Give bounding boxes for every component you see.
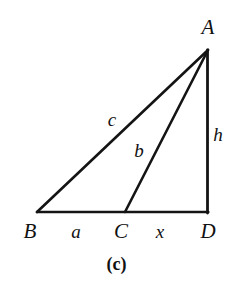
side-label-x: x <box>156 222 164 241</box>
geometry-figure: A B C D c b h a x (c) <box>0 0 233 287</box>
segment-ca <box>125 50 208 212</box>
vertex-label-c: C <box>114 221 128 242</box>
segment-ba <box>37 50 208 212</box>
triangle-drawing <box>0 0 233 287</box>
side-label-b: b <box>134 141 144 160</box>
figure-caption: (c) <box>0 255 233 273</box>
side-label-h: h <box>213 125 223 144</box>
vertex-label-b: B <box>24 221 37 242</box>
side-label-a: a <box>71 222 81 241</box>
vertex-label-d: D <box>200 221 215 242</box>
vertex-label-a: A <box>202 17 215 38</box>
side-label-c: c <box>108 110 116 129</box>
